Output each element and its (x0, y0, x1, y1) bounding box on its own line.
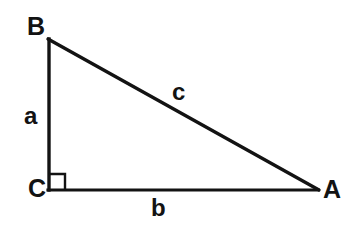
vertex-label-a: A (323, 177, 341, 202)
right-triangle-figure: B C A a b c (0, 0, 356, 237)
side-label-a: a (24, 104, 37, 128)
vertex-label-b: B (27, 14, 45, 39)
side-label-c: c (172, 80, 185, 104)
right-angle-marker (50, 174, 65, 189)
side-c-line (48, 39, 319, 190)
side-label-b: b (151, 196, 166, 220)
vertex-label-c: C (28, 176, 46, 201)
triangle-drawing (0, 0, 356, 237)
